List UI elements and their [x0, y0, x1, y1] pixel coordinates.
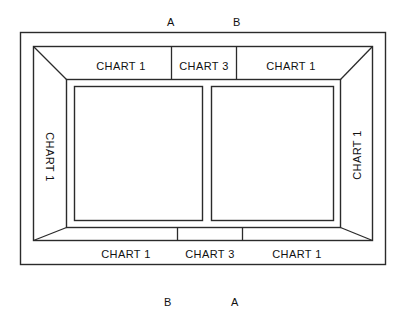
section-marker-b-bottom: B	[164, 297, 172, 308]
top-center-band-label: CHART 3	[179, 61, 228, 72]
bottom-center-band-label: CHART 3	[185, 249, 234, 260]
top-right-band-label: CHART 1	[266, 61, 315, 72]
bevel-bottom-left	[34, 228, 67, 241]
right-band-label: CHART 1	[352, 130, 363, 179]
bevel-bottom-right	[341, 228, 373, 241]
frame-drawing	[0, 0, 405, 325]
frame-inner-rect	[67, 80, 341, 228]
bottom-right-band-label: CHART 1	[272, 249, 321, 260]
section-marker-a-bottom: A	[231, 297, 239, 308]
right-panel-rect	[212, 87, 334, 221]
left-panel-rect	[75, 87, 203, 221]
bevel-top-right	[341, 47, 373, 80]
top-left-band-label: CHART 1	[96, 61, 145, 72]
left-band-label: CHART 1	[44, 132, 55, 181]
section-marker-a-top: A	[167, 17, 175, 28]
frame-diagram: A B CHART 1 CHART 3 CHART 1 CHART 1 CHAR…	[0, 0, 405, 325]
section-marker-b-top: B	[233, 17, 241, 28]
bottom-left-band-label: CHART 1	[101, 249, 150, 260]
bevel-top-left	[34, 47, 67, 80]
